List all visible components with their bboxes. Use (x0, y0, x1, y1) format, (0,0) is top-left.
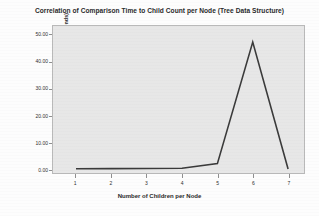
y-axis-tick-labels: 0.0010.0020.0030.0040.0050.00 (18, 25, 48, 174)
x-axis-tick-mark (218, 174, 219, 178)
x-axis-tick-labels: 1234567 (52, 180, 305, 189)
x-axis-tick-label: 1 (68, 180, 82, 186)
y-axis-tick-label: 10.00 (22, 140, 48, 146)
x-axis-tick-mark (75, 174, 76, 178)
x-axis-tick-label: 3 (139, 180, 153, 186)
y-axis-tick-label: 20.00 (22, 113, 48, 119)
plot-area (52, 25, 305, 174)
x-axis-tick-mark (182, 174, 183, 178)
x-axis-tick-marks (52, 174, 305, 179)
x-axis-tick-label: 7 (282, 180, 296, 186)
x-axis-tick-mark (146, 174, 147, 178)
data-series-line (76, 42, 288, 169)
x-axis-tick-label: 2 (104, 180, 118, 186)
x-axis-tick-label: 5 (211, 180, 225, 186)
x-axis-tick-mark (289, 174, 290, 178)
y-axis-tick-label: 0.00 (22, 167, 48, 173)
chart-title: Correlation of Comparison Time to Child … (0, 7, 319, 14)
chart-figure: Correlation of Comparison Time to Child … (0, 0, 319, 216)
x-axis-title: Number of Children per Node (0, 193, 319, 199)
y-axis-tick-label: 50.00 (22, 31, 48, 37)
x-axis-tick-mark (111, 174, 112, 178)
x-axis-tick-label: 6 (246, 180, 260, 186)
plot-svg (53, 26, 304, 173)
x-axis-tick-mark (253, 174, 254, 178)
x-axis-tick-label: 4 (175, 180, 189, 186)
y-axis-tick-label: 30.00 (22, 85, 48, 91)
y-axis-tick-label: 40.00 (22, 58, 48, 64)
